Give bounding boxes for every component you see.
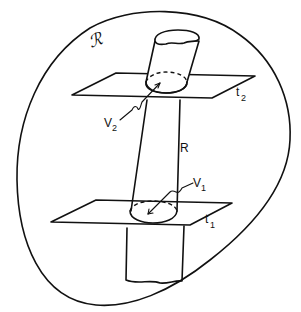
svg-text:1: 1 xyxy=(210,220,215,230)
label-v1: V 1 xyxy=(193,176,206,193)
svg-text:V: V xyxy=(193,176,201,190)
svg-text:2: 2 xyxy=(112,123,117,133)
tube-bottom xyxy=(126,226,184,283)
svg-text:1: 1 xyxy=(201,183,206,193)
label-v2: V 2 xyxy=(104,116,117,133)
region-label: ℛ xyxy=(86,28,107,52)
tube-label: R xyxy=(180,141,189,155)
svg-text:t: t xyxy=(236,85,240,99)
diagram: ℛ R t 2 t 1 V 2 V 1 xyxy=(0,0,301,312)
svg-text:V: V xyxy=(104,116,112,130)
svg-text:2: 2 xyxy=(241,93,246,103)
tube-middle xyxy=(131,100,180,211)
label-t2: t 2 xyxy=(236,85,246,103)
